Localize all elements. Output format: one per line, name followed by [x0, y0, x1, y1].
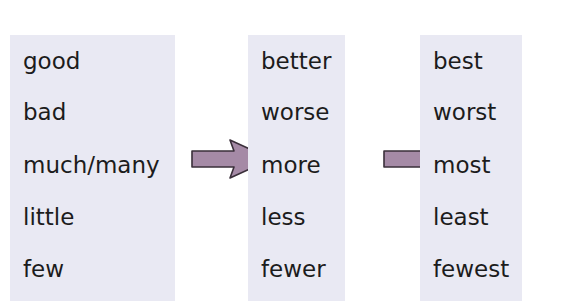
- comparative-column: better worse more less fewer: [248, 35, 345, 301]
- word-bad: bad: [23, 98, 66, 126]
- word-more: more: [261, 151, 321, 179]
- superlative-column: best worst most least fewest: [420, 35, 522, 301]
- word-fewer: fewer: [261, 255, 326, 283]
- word-least: least: [433, 203, 489, 231]
- word-less: less: [261, 203, 306, 231]
- word-much-many: much/many: [23, 151, 160, 179]
- word-better: better: [261, 47, 331, 75]
- base-form-column: good bad much/many little few: [10, 35, 175, 301]
- word-little: little: [23, 203, 74, 231]
- word-worst: worst: [433, 98, 496, 126]
- word-good: good: [23, 47, 80, 75]
- word-worse: worse: [261, 98, 329, 126]
- word-most: most: [433, 151, 490, 179]
- word-best: best: [433, 47, 483, 75]
- word-few: few: [23, 255, 64, 283]
- word-fewest: fewest: [433, 255, 509, 283]
